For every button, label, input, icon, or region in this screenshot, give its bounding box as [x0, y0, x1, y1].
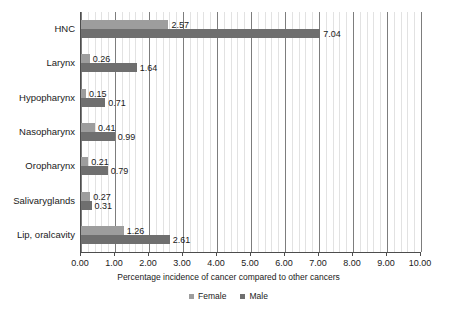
gridline-minor — [407, 12, 408, 252]
bar-female[interactable] — [81, 157, 88, 166]
x-tick-mark — [148, 252, 149, 256]
gridline-minor — [292, 12, 293, 252]
bar-male[interactable] — [81, 63, 137, 72]
gridline-minor — [163, 12, 164, 252]
category-label: Hypopharynx — [0, 92, 75, 103]
x-tick-mark — [250, 252, 251, 256]
gridline-major — [319, 12, 320, 252]
gridline-minor — [333, 12, 334, 252]
gridline-minor — [142, 12, 143, 252]
bar-female[interactable] — [81, 54, 90, 63]
gridline-minor — [190, 12, 191, 252]
male-swatch-icon — [240, 294, 245, 299]
bar-value-label: 7.04 — [323, 30, 341, 39]
gridline-minor — [169, 12, 170, 252]
bar-male[interactable] — [81, 132, 115, 141]
gridline-minor — [176, 12, 177, 252]
category-label: Larynx — [0, 57, 75, 68]
bar-male[interactable] — [81, 235, 170, 244]
x-tick-mark — [352, 252, 353, 256]
gridline-minor — [339, 12, 340, 252]
category-label: Nasopharynx — [0, 126, 75, 137]
bar-male[interactable] — [81, 201, 92, 210]
gridline-major — [353, 12, 354, 252]
gridline-minor — [135, 12, 136, 252]
x-tick-mark — [318, 252, 319, 256]
x-axis-title: Percentage incidence of cancer compared … — [0, 272, 457, 282]
bar-male[interactable] — [81, 98, 105, 107]
gridline-major — [421, 12, 422, 252]
gridline-major — [387, 12, 388, 252]
bar-value-label: 1.64 — [140, 64, 158, 73]
x-tick-mark — [216, 252, 217, 256]
x-tick-mark — [182, 252, 183, 256]
gridline-minor — [401, 12, 402, 252]
bar-female[interactable] — [81, 226, 124, 235]
bar-male[interactable] — [81, 29, 320, 38]
gridline-minor — [265, 12, 266, 252]
gridline-major — [217, 12, 218, 252]
gridline-minor — [414, 12, 415, 252]
gridline-minor — [278, 12, 279, 252]
bar-value-label: 0.71 — [108, 99, 126, 108]
x-tick-mark — [114, 252, 115, 256]
legend-label-male: Male — [249, 291, 267, 301]
gridline-minor — [360, 12, 361, 252]
gridline-minor — [380, 12, 381, 252]
legend-item-male[interactable]: Male — [240, 291, 267, 301]
gridline-minor — [203, 12, 204, 252]
gridline-minor — [346, 12, 347, 252]
bar-chart: 0.001.002.003.004.005.006.007.008.009.00… — [0, 0, 457, 315]
chart-legend: Female Male — [0, 291, 457, 301]
gridline-minor — [156, 12, 157, 252]
gridline-minor — [210, 12, 211, 252]
gridline-minor — [312, 12, 313, 252]
bar-value-label: 0.79 — [111, 167, 129, 176]
bar-female[interactable] — [81, 89, 86, 98]
gridline-minor — [299, 12, 300, 252]
gridline-minor — [326, 12, 327, 252]
x-tick-mark — [386, 252, 387, 256]
legend-item-female[interactable]: Female — [189, 291, 226, 301]
x-tick-mark — [80, 252, 81, 256]
bar-value-label: 0.31 — [95, 202, 113, 211]
category-label: Lip, oralcavity — [0, 229, 75, 240]
gridline-major — [285, 12, 286, 252]
female-swatch-icon — [189, 294, 194, 299]
gridline-minor — [367, 12, 368, 252]
gridline-minor — [373, 12, 374, 252]
bar-value-label: 2.61 — [173, 236, 191, 245]
x-tick-label: 10.00 — [398, 258, 442, 268]
gridline-minor — [244, 12, 245, 252]
bar-female[interactable] — [81, 123, 95, 132]
gridline-minor — [231, 12, 232, 252]
gridline-major — [183, 12, 184, 252]
x-tick-mark — [420, 252, 421, 256]
gridline-minor — [258, 12, 259, 252]
gridline-minor — [224, 12, 225, 252]
bar-male[interactable] — [81, 166, 108, 175]
gridline-major — [251, 12, 252, 252]
gridline-minor — [271, 12, 272, 252]
category-label: Salivaryglands — [0, 195, 75, 206]
category-label: HNC — [0, 23, 75, 34]
legend-label-female: Female — [198, 291, 226, 301]
bar-female[interactable] — [81, 20, 168, 29]
gridline-minor — [197, 12, 198, 252]
gridline-minor — [237, 12, 238, 252]
category-label: Oropharynx — [0, 160, 75, 171]
x-tick-mark — [284, 252, 285, 256]
bar-value-label: 0.99 — [118, 133, 136, 142]
gridline-major — [149, 12, 150, 252]
gridline-minor — [305, 12, 306, 252]
bar-female[interactable] — [81, 192, 90, 201]
gridline-minor — [394, 12, 395, 252]
